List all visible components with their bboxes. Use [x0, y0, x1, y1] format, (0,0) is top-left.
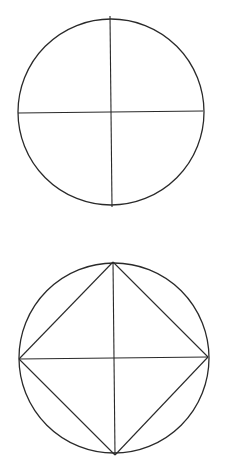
circle-with-inscribed-square-figure [19, 262, 209, 455]
diagram-canvas [0, 0, 225, 474]
circle-with-diameters-figure [18, 16, 204, 207]
line-segment [113, 262, 208, 357]
